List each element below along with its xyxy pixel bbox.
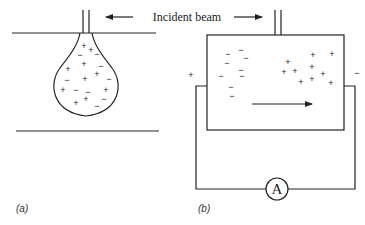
positive-charge: + bbox=[329, 49, 334, 59]
positive-charge: + bbox=[298, 77, 303, 87]
positive-charge: + bbox=[60, 85, 65, 95]
positive-charge: + bbox=[88, 45, 93, 55]
negative-charge: − bbox=[239, 71, 244, 81]
positive-charge: + bbox=[320, 69, 325, 79]
negative-charge: − bbox=[243, 53, 248, 63]
right-circuit-wire bbox=[288, 86, 355, 189]
positive-charge: + bbox=[285, 57, 290, 67]
positive-charge: + bbox=[309, 62, 314, 72]
positive-charge: + bbox=[281, 67, 286, 77]
negative-charge: − bbox=[64, 75, 69, 85]
panel-a: ++−−++−−++−+−−+++−− (a) bbox=[12, 10, 159, 214]
negative-charge: − bbox=[94, 49, 99, 59]
negative-charge: − bbox=[229, 91, 234, 101]
diagram-canvas: Incident beam ++−−++−−++−+−−+++−− (a) −−… bbox=[0, 0, 365, 225]
negative-charge: − bbox=[94, 101, 99, 111]
positive-charge: + bbox=[81, 59, 86, 69]
positive-charge: + bbox=[65, 64, 70, 74]
incident-beam-label: Incident beam bbox=[153, 10, 222, 24]
negative-charge: − bbox=[73, 85, 78, 95]
negative-charge: − bbox=[106, 74, 111, 84]
negative-charge: − bbox=[101, 94, 106, 104]
positive-charge: + bbox=[328, 78, 333, 88]
left-terminal-sign: + bbox=[188, 70, 193, 80]
positive-charge: + bbox=[292, 66, 297, 76]
right-terminal-sign: − bbox=[354, 68, 359, 78]
chamber-charges: −−−−−−−−−++++++++++ bbox=[218, 45, 334, 101]
panel-a-label: (a) bbox=[16, 203, 28, 214]
incident-beam-annotation: Incident beam bbox=[106, 10, 262, 24]
positive-charge: + bbox=[310, 50, 315, 60]
panel-b: −−−−−−−−−++++++++++ A + − (b) bbox=[188, 10, 359, 214]
panel-b-label: (b) bbox=[198, 203, 210, 214]
positive-charge: + bbox=[82, 74, 87, 84]
positive-charge: + bbox=[73, 98, 78, 108]
positive-charge: + bbox=[309, 74, 314, 84]
positive-charge: + bbox=[83, 94, 88, 104]
negative-charge: − bbox=[224, 58, 229, 68]
positive-charge: + bbox=[94, 69, 99, 79]
drop-charges: ++−−++−−++−+−−+++−− bbox=[60, 41, 111, 111]
ammeter-label: A bbox=[272, 181, 283, 197]
negative-charge: − bbox=[218, 71, 223, 81]
